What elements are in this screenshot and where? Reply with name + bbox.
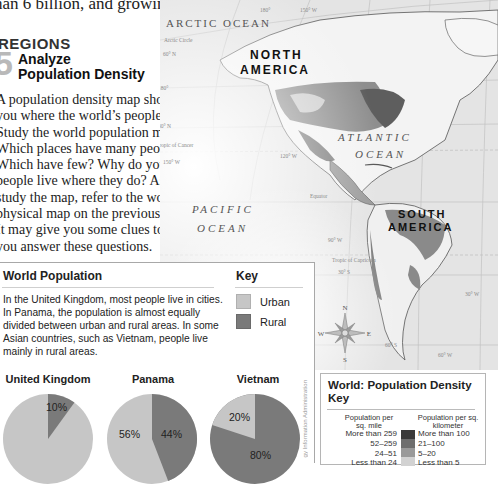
panama-rural-label: 44% <box>161 428 182 440</box>
density-km-3: 5–20 <box>418 449 436 458</box>
south-america-label-2: AMERICA <box>388 221 453 233</box>
compass-n: N <box>342 304 347 312</box>
population-density-key: World: Population Density Key Population… <box>320 373 486 465</box>
pie-title-vietnam: Vietnam <box>208 373 308 385</box>
atlantic-label-2: OCEAN <box>355 148 406 160</box>
density-swatch-1 <box>401 430 415 439</box>
col-head-mile: Population per sq. mile <box>343 414 395 429</box>
key-divider <box>235 287 303 288</box>
density-km-4: Less than 5 <box>418 458 459 467</box>
panama-urban-label: 56% <box>119 428 140 440</box>
pacific-label-1: PACIFIC <box>191 203 254 215</box>
skill-title: Analyze Population Density <box>18 52 145 82</box>
density-mile-1: More than 259 <box>345 429 397 438</box>
pie-title-uk: United Kingdom <box>0 373 98 385</box>
equator-label: Equator <box>310 193 328 199</box>
lon-150w-label: 150° W <box>163 159 181 165</box>
lat-30n-label: 30° N <box>160 123 171 129</box>
lat-60n-label: 60° N <box>163 51 176 57</box>
key-item-urban: Urban <box>236 294 290 309</box>
key-title: Key <box>236 269 258 283</box>
density-km-1: More than 100 <box>418 429 470 438</box>
lon-180-label: 180° <box>260 7 270 13</box>
density-mile-4: Less than 24 <box>351 458 397 467</box>
lon-30w-label: 30° W <box>465 291 480 297</box>
density-swatch-3 <box>401 448 415 457</box>
density-mile-2: 52–259 <box>370 439 397 448</box>
skill-number: 5 <box>0 44 13 83</box>
skill-title-line1: Analyze <box>18 52 145 67</box>
pie-title-panama: Panama <box>103 373 203 385</box>
north-america-label-2: AMERICA <box>240 63 310 77</box>
south-america-label-1: SOUTH <box>398 208 447 220</box>
source-credit: gy Information Administration <box>302 380 308 457</box>
compass-w: W <box>318 330 325 338</box>
pie-chart-vietnam <box>209 393 301 485</box>
compass-s: S <box>343 356 347 364</box>
lat-30s-label: 30° S <box>338 269 350 275</box>
world-population-title: World Population <box>3 269 102 283</box>
title-divider <box>2 287 214 288</box>
density-km-2: 21–100 <box>418 439 445 448</box>
tropic-capricorn-label: Tropic of Capricorn <box>332 257 376 263</box>
uk-rural-label: 10% <box>46 401 67 413</box>
skill-title-line2: Population Density <box>18 67 145 82</box>
density-swatch-4 <box>401 457 415 466</box>
tropic-cancer-label: Tropic of Cancer <box>160 142 194 148</box>
lon-120w-label: 120° W <box>280 153 298 159</box>
lon-60w-label: 60° W <box>438 352 453 358</box>
pacific-label-2: OCEAN <box>197 222 248 234</box>
key-item-rural: Rural <box>236 314 286 329</box>
vietnam-urban-label: 20% <box>229 411 250 423</box>
key-label-rural: Rural <box>260 316 286 328</box>
density-swatch-2 <box>401 439 415 448</box>
density-key-divider <box>327 409 475 410</box>
key-label-urban: Urban <box>260 296 290 308</box>
world-population-description: In the United Kingdom, most people live … <box>3 293 228 358</box>
density-mile-3: 24–51 <box>375 449 397 458</box>
rural-swatch <box>236 314 251 329</box>
lon-150w-top-label: 150° W <box>300 7 318 13</box>
urban-swatch <box>236 294 251 309</box>
density-key-title: World: Population Density Key <box>328 379 478 405</box>
arctic-ocean-label: ARCTIC OCEAN <box>166 17 271 29</box>
north-america-label-1: NORTH <box>250 48 303 62</box>
vietnam-rural-label: 80% <box>250 449 271 461</box>
atlantic-label-1: ATLANTIC <box>337 131 412 143</box>
arctic-circle-label: Arctic Circle <box>164 37 193 43</box>
compass-e: E <box>367 330 371 338</box>
col-head-km: Population per sq. kilometer <box>417 414 479 429</box>
lat-60s-label: 60° S <box>385 342 397 348</box>
lon-180-side-label: 180° <box>160 85 168 91</box>
lon-90w-label: 90° W <box>328 237 343 243</box>
